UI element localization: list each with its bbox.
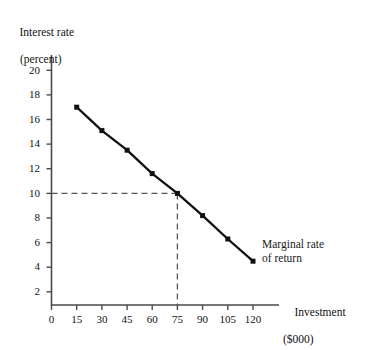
y-tick-label: 10 [16, 187, 40, 199]
x-tick-label: 30 [89, 313, 115, 325]
x-tick-label: 15 [64, 313, 90, 325]
series-annotation-line2: of return [262, 252, 324, 266]
y-tick-label: 12 [16, 162, 40, 174]
data-point [175, 191, 180, 196]
y-tick-label: 6 [16, 236, 40, 248]
y-tick-label: 14 [16, 137, 40, 149]
x-axis-title-units: ($000) [283, 333, 346, 347]
x-tick-label: 45 [114, 313, 140, 325]
x-axis-title: Investment ($000) [283, 292, 346, 350]
x-tick-label: 105 [215, 313, 241, 325]
x-tick-label: 0 [39, 313, 65, 325]
x-axis-title-line1: Investment [295, 306, 346, 318]
y-axis-title: Interest rate (percent) [8, 12, 74, 93]
y-tick-label: 8 [16, 211, 40, 223]
data-point [200, 213, 205, 218]
marginal-rate-of-return-chart: Interest rate (percent) Investment ($000… [0, 0, 377, 350]
data-point [125, 148, 130, 153]
x-tick-label: 60 [139, 313, 165, 325]
y-tick-label: 2 [16, 285, 40, 297]
y-tick-label: 20 [16, 64, 40, 76]
data-point [150, 171, 155, 176]
y-tick-label: 16 [16, 113, 40, 125]
data-point [74, 105, 79, 110]
x-tick-label: 90 [190, 313, 216, 325]
data-point [251, 259, 256, 264]
data-point [99, 128, 104, 133]
y-tick-label: 4 [16, 260, 40, 272]
series-annotation-line1: Marginal rate [262, 238, 324, 250]
x-tick-label: 75 [164, 313, 190, 325]
series-annotation: Marginal rate of return [262, 238, 324, 265]
y-tick-label: 18 [16, 88, 40, 100]
data-point [225, 237, 230, 242]
x-tick-label: 120 [240, 313, 266, 325]
y-axis-title-line1: Interest rate [20, 26, 75, 38]
